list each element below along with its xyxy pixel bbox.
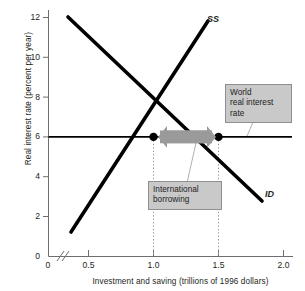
saving-point-marker — [149, 133, 157, 141]
borrowing-line-2: borrowing — [153, 195, 217, 206]
x-tick-label-1-0: 1.0 — [141, 260, 167, 270]
x-axis-title-text: Investment and saving (trillions of 1996… — [36, 277, 268, 286]
x-tick-label-2-0: 2.0 — [271, 260, 297, 270]
x-tick-label-0-5: 0.5 — [76, 260, 102, 270]
economics-chart-figure: 12 10 8 6 4 2 0 0 0.5 1.0 1.5 2.0 Real i… — [0, 0, 305, 291]
y-tick-label-2: 2 — [18, 211, 40, 221]
y-axis-title: Real interest rate (percent per year) — [24, 14, 33, 184]
y-axis-ticks — [43, 18, 49, 217]
x-tick-label-0: 0 — [35, 260, 61, 270]
borrowing-line-1: International — [153, 185, 217, 196]
world-real-interest-rate-callout: World real interest rate — [225, 84, 292, 123]
x-axis-title: Investment and saving (trillions of 1996… — [0, 277, 305, 286]
id-curve-label: ID — [265, 189, 274, 199]
world-rate-line-3: rate — [230, 109, 287, 120]
international-borrowing-callout: International borrowing — [148, 181, 222, 210]
x-tick-label-1-5: 1.5 — [206, 260, 232, 270]
world-rate-line-2: real interest — [230, 98, 287, 109]
chart-canvas — [0, 0, 305, 291]
ss-curve-label: SS — [207, 14, 219, 24]
borrowing-leader-line — [187, 143, 196, 183]
world-rate-line-1: World — [230, 88, 287, 99]
x-axis-ticks — [89, 250, 284, 257]
